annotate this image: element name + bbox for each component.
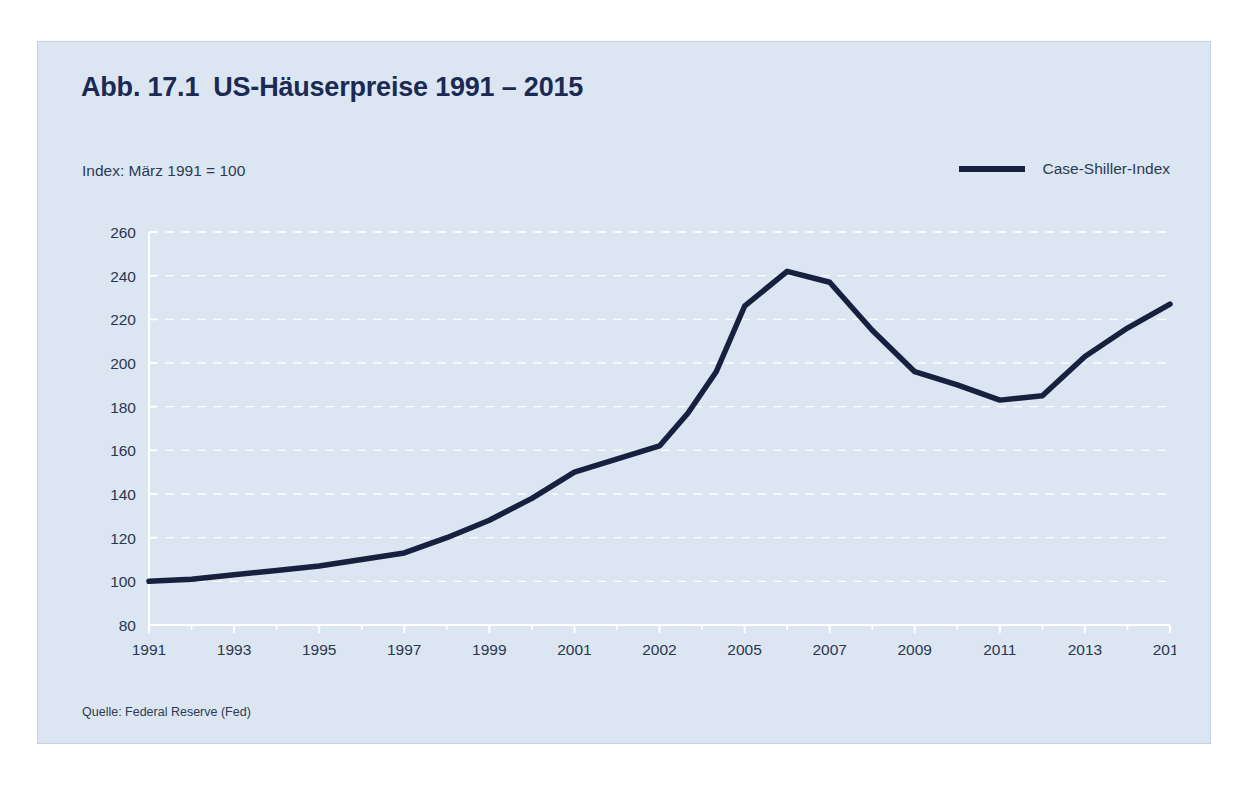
index-note: Index: März 1991 = 100	[82, 162, 245, 180]
figure-number: Abb. 17.1	[81, 72, 199, 102]
figure-title: Abb. 17.1US-Häuserpreise 1991 – 2015	[81, 72, 583, 103]
plot-area: 80100120140160180200220240260 1991199319…	[81, 222, 1176, 677]
x-tick-label: 2013	[1068, 641, 1102, 658]
y-tick-label: 140	[110, 486, 136, 503]
x-tick-label: 2011	[983, 641, 1016, 658]
axes	[149, 232, 1170, 633]
y-tick-label: 220	[110, 311, 136, 328]
x-tick-label: 2007	[812, 641, 846, 658]
page-running-head-bleed	[0, 0, 1248, 16]
y-tick-label: 180	[110, 399, 136, 416]
x-tick-label: 1997	[387, 641, 421, 658]
figure-title-text: US-Häuserpreise 1991 – 2015	[213, 72, 583, 102]
data-series-layer	[149, 271, 1170, 581]
line-chart-svg: 80100120140160180200220240260 1991199319…	[81, 222, 1176, 677]
gridlines	[149, 232, 1170, 581]
x-tick-label: 1991	[132, 641, 166, 658]
y-tick-label: 100	[110, 573, 136, 590]
legend: Case-Shiller-Index	[959, 160, 1171, 178]
x-tick-label: 2005	[727, 641, 761, 658]
x-tick-label: 1993	[217, 641, 251, 658]
y-tick-label: 260	[110, 224, 136, 241]
x-tick-label: 1995	[302, 641, 336, 658]
x-tick-label: 2015	[1153, 641, 1176, 658]
y-tick-label: 200	[110, 355, 136, 372]
legend-label-case-shiller: Case-Shiller-Index	[1043, 160, 1171, 178]
x-tick-label: 2009	[898, 641, 932, 658]
y-tick-label: 240	[110, 268, 136, 285]
y-tick-label: 80	[119, 617, 137, 634]
x-tick-label: 1999	[472, 641, 506, 658]
y-tick-label: 120	[110, 530, 136, 547]
x-tick-label: 2002	[642, 641, 676, 658]
series-line-1	[149, 271, 1170, 581]
figure-card: Abb. 17.1US-Häuserpreise 1991 – 2015 Ind…	[37, 41, 1211, 744]
y-tick-label: 160	[110, 442, 136, 459]
x-axis-tick-labels: 1991199319951997199920012002200520072009…	[132, 641, 1176, 658]
x-tick-label: 2001	[557, 641, 591, 658]
source-note: Quelle: Federal Reserve (Fed)	[82, 705, 251, 719]
legend-line-swatch-icon	[959, 166, 1025, 172]
y-axis-tick-labels: 80100120140160180200220240260	[110, 224, 136, 634]
